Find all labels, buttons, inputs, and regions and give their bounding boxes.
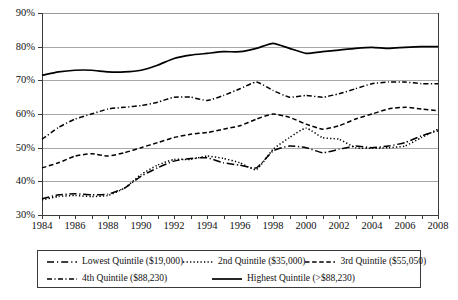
x-axis-tick-mark [438,215,439,219]
x-axis-tick-mark [75,215,76,219]
x-axis-tick-mark [389,215,390,219]
x-axis-tick-mark [356,215,357,219]
y-axis-tick-label: 50% [2,143,35,154]
x-axis-tick-mark [42,215,43,219]
x-axis-tick-mark [240,215,241,219]
x-axis-tick-mark [306,215,307,219]
y-axis-tick-label: 30% [2,210,35,221]
x-axis-tick-mark [405,215,406,219]
x-axis-tick-mark [372,215,373,219]
series-line [42,43,438,75]
series-line [42,107,438,168]
y-axis-tick-label: 90% [2,8,35,19]
y-axis-tick-label: 40% [2,176,35,187]
legend-swatch-dotted-icon [183,257,213,267]
legend-swatch-long-dash-dot-icon [47,257,77,267]
x-axis-tick-mark [290,215,291,219]
plot-frame-right [438,13,439,215]
x-axis-tick-mark [224,215,225,219]
y-axis-tick-label: 80% [2,42,35,53]
legend-label: 4th Quintile ($88,230) [82,274,167,284]
series-line [42,82,438,139]
y-axis-tick-label: 60% [2,109,35,120]
x-axis-tick-mark [158,215,159,219]
x-axis-tick-mark [108,215,109,219]
x-axis-tick-mark [257,215,258,219]
line-chart: 90% 80% 70% 60% 50% 40% 30% 198419861988… [0,0,458,300]
legend-label: Highest Quintile (>$88,230) [247,274,355,284]
series-line [42,131,438,199]
legend-label: 3rd Quintile ($55,050) [340,257,426,267]
x-axis-tick-mark [59,215,60,219]
legend-row: Lowest Quintile ($19,000) 2nd Quintile (… [38,253,420,270]
legend-swatch-solid-icon [212,274,242,284]
legend: Lowest Quintile ($19,000) 2nd Quintile (… [37,250,421,288]
legend-swatch-dash-dot-icon [47,274,77,284]
x-axis-tick-mark [92,215,93,219]
x-axis-tick-mark [125,215,126,219]
legend-item-lowest-quintile: Lowest Quintile ($19,000) [47,257,183,267]
legend-item-highest-quintile: Highest Quintile (>$88,230) [212,274,355,284]
legend-item-3rd-quintile: 3rd Quintile ($55,050) [305,257,426,267]
legend-row: 4th Quintile ($88,230) Highest Quintile … [38,270,420,287]
x-axis-tick-mark [323,215,324,219]
legend-item-2nd-quintile: 2nd Quintile ($35,000) [183,257,305,267]
x-axis-tick-mark [207,215,208,219]
legend-label: 2nd Quintile ($35,000) [218,257,305,267]
y-axis-tick-label: 70% [2,75,35,86]
plot-area: 1984198619881990199219941996199820002002… [42,13,438,215]
x-axis-tick-mark [422,215,423,219]
series-container [42,13,438,215]
x-axis-tick-mark [191,215,192,219]
x-axis-tick-mark [339,215,340,219]
x-axis-tick-label: 2008 [418,221,458,232]
x-axis-tick-mark [141,215,142,219]
legend-label: Lowest Quintile ($19,000) [82,257,183,267]
x-axis-tick-mark [174,215,175,219]
legend-item-4th-quintile: 4th Quintile ($88,230) [47,274,212,284]
series-line [42,128,438,200]
legend-swatch-dashed-icon [305,257,335,267]
x-axis-tick-mark [273,215,274,219]
